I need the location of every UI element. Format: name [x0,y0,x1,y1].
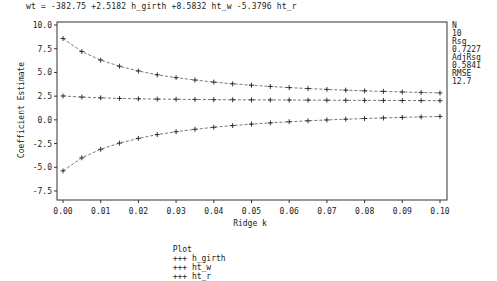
plus-marker-icon [419,90,424,95]
x-tick-label: 0.01 [91,207,110,216]
plus-marker-icon [324,117,329,122]
plus-marker-icon [343,98,348,103]
plus-marker-icon [438,90,443,95]
y-tick-label: -7.5 [33,187,52,196]
x-tick-label: 0.00 [53,207,72,216]
plus-marker-icon [287,85,292,90]
x-axis-label: Ridge k [233,219,267,228]
plus-marker-icon [419,114,424,119]
plus-marker-icon [362,98,367,103]
plus-marker-icon [381,115,386,120]
plus-marker-icon [211,125,216,130]
x-tick-label: 0.02 [129,207,148,216]
plus-marker-icon [230,81,235,86]
plus-marker-icon [438,114,443,119]
plus-marker-icon [211,80,216,85]
x-tick-label: 0.04 [204,207,223,216]
y-tick-label: 10.0 [33,21,52,30]
plus-marker-icon [98,58,103,63]
x-tick-label: 0.06 [280,207,299,216]
plus-marker-icon [79,95,84,100]
legend-item-ht-w: +++ ht_w [173,263,212,272]
plus-marker-icon [362,116,367,121]
plus-marker-icon [249,97,254,102]
plus-marker-icon [211,97,216,102]
plus-marker-icon [230,97,235,102]
plus-marker-icon [155,72,160,77]
plus-marker-icon [287,98,292,103]
y-tick-label: -5.0 [33,163,52,172]
plot-frame [57,22,447,200]
plus-marker-icon [381,89,386,94]
plus-marker-icon [249,83,254,88]
plus-marker-icon [117,96,122,101]
x-tick-label: 0.07 [317,207,336,216]
x-tick-label: 0.03 [166,207,185,216]
plus-marker-icon [79,49,84,54]
plus-marker-icon [174,129,179,134]
plus-marker-icon [324,87,329,92]
plus-marker-icon [136,136,141,141]
y-tick-label: 0.0 [38,116,53,125]
plus-marker-icon [306,86,311,91]
plus-marker-icon [136,96,141,101]
plus-marker-icon [306,98,311,103]
plus-marker-icon [155,132,160,137]
x-tick-label: 0.10 [430,207,449,216]
plus-marker-icon [192,127,197,132]
plus-marker-icon [61,36,66,41]
legend: Plot +++ h_girth +++ ht_w +++ ht_r [163,236,244,281]
legend-title: Plot [173,245,192,254]
plus-marker-icon [117,64,122,69]
plus-marker-icon [192,97,197,102]
plus-marker-icon [174,97,179,102]
plus-marker-icon [381,98,386,103]
plus-marker-icon [136,69,141,74]
plus-marker-icon [343,117,348,122]
plus-marker-icon [249,122,254,127]
plus-marker-icon [61,93,66,98]
plus-marker-icon [362,88,367,93]
y-tick-label: 5.0 [38,68,53,77]
y-tick-label: 7.5 [38,45,53,54]
plus-marker-icon [268,97,273,102]
plus-marker-icon [324,98,329,103]
y-axis-label: Coefficient Estimate [17,62,26,159]
plus-marker-icon [98,95,103,100]
plus-marker-icon [419,98,424,103]
plus-marker-icon [287,119,292,124]
legend-item-h-girth: +++ h_girth [173,254,226,263]
fit-statistics: N 10 Rsq 0.7227 AdjRsq 0.5841 RMSE 12.7 [452,22,481,86]
plus-marker-icon [155,97,160,102]
plus-marker-icon [400,115,405,120]
plus-marker-icon [98,147,103,152]
plus-marker-icon [79,155,84,160]
plus-marker-icon [230,123,235,128]
x-tick-label: 0.08 [355,207,374,216]
plus-marker-icon [268,120,273,125]
plus-marker-icon [400,89,405,94]
plus-marker-icon [400,98,405,103]
y-tick-label: -2.5 [33,140,52,149]
plus-marker-icon [306,118,311,123]
x-tick-label: 0.09 [393,207,412,216]
plus-marker-icon [438,98,443,103]
plus-marker-icon [268,84,273,89]
plus-marker-icon [192,78,197,83]
plus-marker-icon [61,168,66,173]
plus-marker-icon [117,141,122,146]
y-tick-label: 2.5 [38,92,53,101]
plus-marker-icon [174,75,179,80]
stat-rmse-value: 12.7 [452,78,481,86]
x-tick-label: 0.05 [242,207,261,216]
plus-marker-icon [343,88,348,93]
legend-item-ht-r: +++ ht_r [173,272,212,281]
